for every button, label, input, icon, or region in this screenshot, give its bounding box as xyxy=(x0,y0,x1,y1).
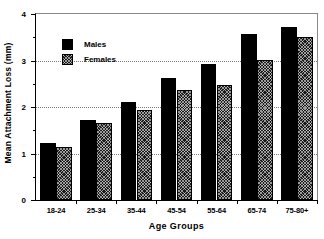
y-tick-label-3: 3 xyxy=(6,56,26,65)
bar-males-75-80+ xyxy=(281,27,297,200)
x-tick-label-65-74: 65-74 xyxy=(247,206,266,215)
x-tick-label-25-34: 25-34 xyxy=(87,206,106,215)
bar-males-65-74 xyxy=(241,34,257,200)
x-tick-18-24 xyxy=(76,200,77,204)
bar-males-35-44 xyxy=(121,102,137,200)
legend-swatch-females-icon xyxy=(62,54,73,65)
legend-label-females: Females xyxy=(84,55,116,64)
x-tick-75-80+ xyxy=(317,200,318,204)
chart-legend: Males Females xyxy=(62,37,152,67)
bar-males-45-54 xyxy=(161,78,177,200)
bar-males-25-34 xyxy=(80,120,96,200)
x-tick-label-35-44: 35-44 xyxy=(127,206,146,215)
bar-females-35-44 xyxy=(137,110,153,200)
y-tick-label-4: 4 xyxy=(6,10,26,19)
x-tick-label-55-64: 55-64 xyxy=(207,206,226,215)
y-tick-label-2: 2 xyxy=(6,103,26,112)
x-tick-55-64 xyxy=(237,200,238,204)
x-tick-label-75-80+: 75-80+ xyxy=(285,206,308,215)
y-tick-4 xyxy=(31,14,36,15)
x-tick-35-44 xyxy=(156,200,157,204)
bar-females-75-80+ xyxy=(297,37,313,200)
bar-females-55-64 xyxy=(217,85,233,200)
x-tick-label-18-24: 18-24 xyxy=(47,206,66,215)
legend-item-males: Males xyxy=(62,37,152,52)
legend-label-males: Males xyxy=(84,40,106,49)
bar-chart-figure: Mean Attachment Loss (mm) 01234 Males Fe… xyxy=(0,0,324,239)
y-minor-tick-3.5 xyxy=(33,37,36,38)
y-minor-tick-1.5 xyxy=(33,130,36,131)
legend-swatch-males-icon xyxy=(62,39,73,50)
y-tick-1 xyxy=(31,154,36,155)
y-tick-label-1: 1 xyxy=(6,149,26,158)
bar-males-18-24 xyxy=(40,143,56,200)
x-tick-label-45-54: 45-54 xyxy=(167,206,186,215)
y-tick-2 xyxy=(31,107,36,108)
x-axis-title: Age Groups xyxy=(35,221,318,231)
bar-females-65-74 xyxy=(257,60,273,200)
x-tick-45-54 xyxy=(197,200,198,204)
y-tick-0 xyxy=(31,200,36,201)
x-tick-25-34 xyxy=(116,200,117,204)
bar-females-45-54 xyxy=(177,90,193,200)
legend-item-females: Females xyxy=(62,52,152,67)
bar-females-25-34 xyxy=(96,123,112,200)
y-tick-label-0: 0 xyxy=(6,196,26,205)
y-minor-tick-0.5 xyxy=(33,177,36,178)
x-tick-65-74 xyxy=(277,200,278,204)
bar-males-55-64 xyxy=(201,64,217,200)
bar-females-18-24 xyxy=(56,147,72,200)
y-minor-tick-2.5 xyxy=(33,84,36,85)
y-tick-3 xyxy=(31,61,36,62)
